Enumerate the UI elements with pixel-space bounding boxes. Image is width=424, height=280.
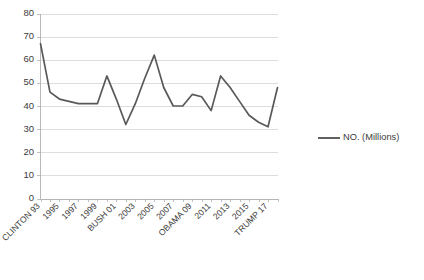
x-tick-label: 2005: [135, 201, 156, 222]
line-chart: 01020304050607080 CLINTON 93199519971999…: [0, 0, 424, 280]
y-tick-label: 60: [23, 53, 34, 64]
chart-canvas: 01020304050607080 CLINTON 93199519971999…: [0, 0, 424, 280]
y-tick-label: 10: [23, 169, 34, 180]
y-tick-label: 30: [23, 123, 34, 134]
x-tick-label: 2011: [192, 201, 212, 221]
y-tick-label: 20: [23, 146, 34, 157]
y-tick-label: 80: [23, 7, 34, 18]
legend-label: NO. (Millions): [343, 132, 399, 142]
x-tick-label: 2003: [116, 201, 137, 222]
y-tick-label: 70: [23, 30, 34, 41]
gridlines-group: [41, 15, 278, 200]
x-tick-label: 1995: [40, 201, 61, 222]
data-series-group: [41, 44, 278, 127]
y-tick-label: 40: [23, 100, 34, 111]
x-tick-label: 2013: [211, 201, 232, 222]
legend: NO. (Millions): [318, 132, 399, 142]
y-tick-label: 50: [23, 76, 34, 87]
series-line-1: [41, 44, 278, 127]
x-tick-label: CLINTON 93: [0, 201, 42, 243]
y-axis-group: [37, 14, 41, 200]
x-tick-label: 1997: [59, 201, 80, 222]
x-tick-labels-group: CLINTON 93199519971999BUSH 0120032005200…: [0, 201, 270, 243]
y-tick-labels-group: 01020304050607080: [23, 7, 34, 203]
